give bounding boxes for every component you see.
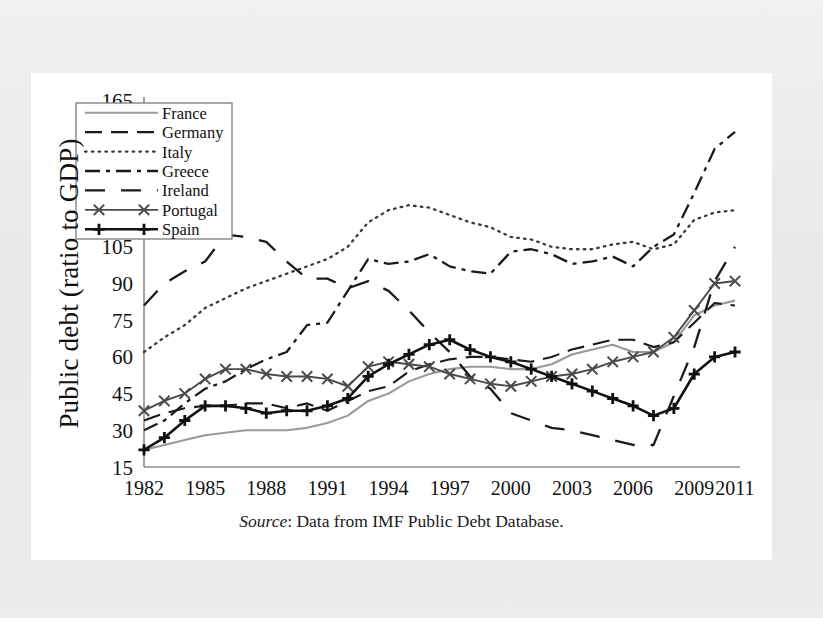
y-tick-label: 15 — [112, 456, 133, 480]
x-tick-label: 1994 — [369, 477, 409, 499]
x-tick-label: 2009 — [674, 477, 714, 499]
legend-label: Ireland — [162, 181, 209, 200]
source-label: Source — [239, 511, 287, 531]
series-france — [144, 301, 735, 450]
legend-label: Spain — [162, 220, 200, 239]
x-tick-label: 1997 — [430, 477, 470, 499]
source-note: Source: Data from IMF Public Debt Databa… — [31, 511, 772, 532]
legend-label: France — [162, 104, 207, 123]
x-tick-label: 1991 — [307, 477, 347, 499]
chart-axes — [144, 97, 740, 467]
line-chart-plot: 153045607590105120135150165 198219851988… — [31, 73, 772, 513]
figure-card: Public debt (ratio to GDP) 1530456075901… — [31, 73, 772, 560]
chart-legend: FranceGermanyItalyGreeceIrelandPortugalS… — [76, 103, 232, 239]
x-tick-label: 1988 — [246, 477, 286, 499]
legend-label: Greece — [162, 162, 209, 181]
x-tick-label: 2006 — [613, 477, 653, 499]
x-tick-label: 2003 — [552, 477, 592, 499]
y-tick-label: 30 — [112, 419, 133, 443]
source-body: : Data from IMF Public Debt Database. — [287, 511, 564, 531]
series-germany — [144, 303, 735, 420]
y-tick-label: 90 — [112, 272, 133, 296]
legend-label: Italy — [162, 143, 193, 162]
x-tick-label: 1985 — [185, 477, 225, 499]
x-tick-label: 1982 — [124, 477, 164, 499]
y-tick-label: 45 — [112, 382, 133, 406]
x-axis-tick-labels: 1982198519881991199419972000200320062009… — [124, 477, 755, 499]
x-tick-label: 2011 — [715, 477, 754, 499]
chart-figure: Public debt (ratio to GDP) 1530456075901… — [31, 73, 772, 560]
x-tick-label: 2000 — [491, 477, 531, 499]
y-tick-label: 60 — [112, 345, 133, 369]
legend-label: Germany — [162, 123, 224, 142]
page-background: Public debt (ratio to GDP) 1530456075901… — [0, 0, 823, 618]
y-tick-label: 75 — [112, 309, 133, 333]
y-axis-title: Public debt (ratio to GDP) — [54, 84, 85, 484]
legend-label: Portugal — [162, 201, 218, 220]
